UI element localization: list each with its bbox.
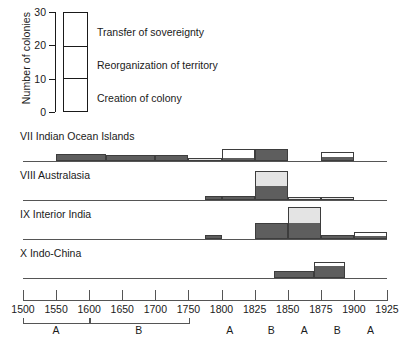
- x-tick-1875: [321, 290, 322, 301]
- series-baseline: [23, 200, 387, 201]
- x-tick-1700: [155, 290, 156, 301]
- legend-label-reorganization: Reorganization of territory: [97, 59, 218, 71]
- y-tick-label-0: 0: [40, 106, 46, 118]
- x-axis-line: [23, 300, 387, 301]
- bar: [205, 196, 222, 200]
- legend-swatch-creation: [64, 78, 87, 111]
- x-tick-1925: [387, 290, 388, 301]
- y-axis-line: [55, 12, 56, 112]
- bar-segment-creation: [355, 236, 386, 238]
- bar-segment-creation: [322, 157, 353, 160]
- bar: [274, 271, 314, 278]
- bar-segment-creation: [223, 158, 254, 160]
- bar: [106, 155, 156, 161]
- bar: [205, 235, 222, 239]
- bar-segment-creation: [256, 186, 287, 200]
- series-baseline: [23, 278, 387, 279]
- legend-label-transfer: Transfer of sovereignty: [97, 26, 204, 38]
- y-tick-30: 30: [49, 12, 55, 13]
- x-tick-1650: [122, 290, 123, 301]
- bar-segment-creation: [289, 223, 320, 238]
- bar: [288, 197, 321, 200]
- y-tick-label-30: 30: [34, 6, 46, 18]
- series-row: VII Indian Ocean Islands: [0, 130, 399, 169]
- bar: [222, 196, 255, 200]
- x-tick-label-1850: 1850: [276, 303, 299, 315]
- legend-swatch-reorganization: [64, 46, 87, 79]
- x-tick-label-1925: 1925: [375, 303, 398, 315]
- bar-segment-creation: [57, 155, 105, 160]
- series-label-indo-china: X Indo-China: [20, 247, 81, 259]
- x-tick-label-1600: 1600: [77, 303, 100, 315]
- series-rows: VII Indian Ocean IslandsVIII Australasia…: [0, 130, 399, 285]
- chart-canvas: Number of colonies 0102030 Transfer of s…: [0, 0, 399, 342]
- x-tick-label-1825: 1825: [243, 303, 266, 315]
- y-tick-label-10: 10: [34, 73, 46, 85]
- x-tick-label-1875: 1875: [309, 303, 332, 315]
- series-baseline: [23, 239, 387, 240]
- bar: [255, 149, 288, 161]
- bar-segment-creation: [275, 272, 313, 277]
- bar-segment-creation: [223, 197, 254, 199]
- legend-swatch-transfer: [64, 13, 87, 46]
- x-tick-label-1800: 1800: [210, 303, 233, 315]
- x-tick-1500: [23, 290, 24, 301]
- bar: [188, 158, 221, 161]
- x-tick-1550: [56, 290, 57, 301]
- x-tick-label-1650: 1650: [111, 303, 134, 315]
- legend-stacked-bar: [63, 12, 88, 112]
- x-tick-1850: [288, 290, 289, 301]
- legend-label-creation: Creation of colony: [97, 92, 182, 104]
- x-tick-1750: [188, 290, 189, 301]
- series-label-australasia: VIII Australasia: [20, 169, 90, 181]
- period-label-a-0: A: [53, 324, 60, 336]
- x-tick-1600: [89, 290, 90, 301]
- period-label-b-3: B: [268, 324, 275, 336]
- bar-segment-creation: [107, 156, 155, 160]
- x-tick-1800: [222, 290, 223, 301]
- x-tick-1900: [354, 290, 355, 301]
- bar-segment-creation: [206, 236, 221, 238]
- bar: [321, 235, 354, 239]
- bar-segment-reorganization: [322, 198, 353, 199]
- period-label-b-1: B: [135, 324, 142, 336]
- series-baseline: [23, 161, 387, 162]
- series-label-indian-ocean-islands: VII Indian Ocean Islands: [20, 130, 134, 142]
- y-tick-20: 20: [49, 45, 55, 46]
- bar: [321, 152, 354, 161]
- bar: [255, 223, 288, 239]
- period-label-a-2: A: [226, 324, 233, 336]
- x-tick-label-1750: 1750: [177, 303, 200, 315]
- bar: [321, 197, 354, 200]
- series-row: VIII Australasia: [0, 169, 399, 208]
- x-tick-label-1900: 1900: [342, 303, 365, 315]
- bar-segment-creation: [322, 236, 353, 238]
- bar: [314, 262, 344, 278]
- series-row: IX Interior India: [0, 208, 399, 247]
- x-tick-label-1500: 1500: [11, 303, 34, 315]
- x-tick-label-1550: 1550: [44, 303, 67, 315]
- bar-segment-creation: [256, 224, 287, 238]
- y-tick-10: 10: [49, 79, 55, 80]
- bar: [255, 171, 288, 200]
- legend: Number of colonies 0102030 Transfer of s…: [0, 0, 399, 128]
- bar-segment-reorganization: [289, 198, 320, 199]
- period-label-a-6: A: [367, 324, 374, 336]
- bar-segment-reorganization: [289, 208, 320, 223]
- bar-segment-creation: [206, 197, 221, 199]
- bar: [155, 155, 188, 161]
- bar: [354, 232, 387, 239]
- x-tick-1825: [255, 290, 256, 301]
- bar-segment-reorganization: [256, 172, 287, 186]
- bar-segment-creation: [256, 150, 287, 160]
- y-axis-label: Number of colonies: [20, 3, 32, 113]
- series-label-interior-india: IX Interior India: [20, 208, 91, 220]
- y-tick-0: 0: [49, 112, 55, 113]
- bar: [288, 207, 321, 239]
- bar-segment-creation: [315, 266, 343, 277]
- bar-segment-reorganization: [189, 159, 220, 160]
- y-tick-label-20: 20: [34, 39, 46, 51]
- series-row: X Indo-China: [0, 247, 399, 286]
- bar: [222, 149, 255, 161]
- x-axis: 1500155016001650170017501800182518501875…: [0, 288, 399, 342]
